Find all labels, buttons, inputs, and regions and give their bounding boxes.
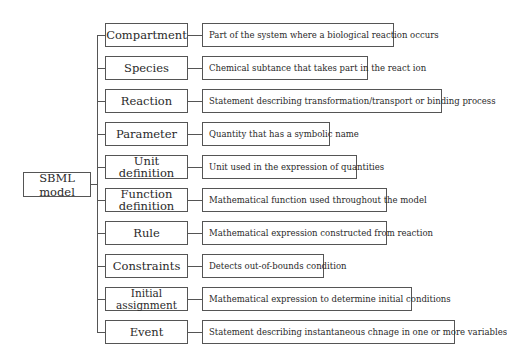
branch-connector (97, 35, 105, 36)
description-text: Unit used in the expression of quantitie… (209, 162, 384, 172)
node-label: Function definition (114, 188, 179, 212)
node-parameter: Parameter (105, 122, 188, 146)
branch-connector (97, 266, 105, 267)
root-node-label: SBML model (24, 171, 90, 199)
node-label: Compartment (106, 29, 187, 41)
branch-connector (97, 200, 105, 201)
node-reaction: Reaction (105, 89, 188, 113)
node-species: Species (105, 56, 188, 80)
description-text: Quantity that has a symbolic name (209, 129, 359, 139)
branch-connector (97, 68, 105, 69)
description-text: Statement describing transformation/tran… (209, 96, 496, 106)
desc-connector (188, 266, 202, 267)
description-event: Statement describing instantaneous chnag… (202, 320, 455, 344)
node-label: Reaction (121, 95, 172, 107)
description-text: Mathematical expression to determine ini… (209, 294, 451, 304)
desc-connector (188, 35, 202, 36)
tree-spine (97, 35, 98, 332)
node-unit-definition: Unit definition (105, 155, 188, 179)
description-reaction: Statement describing transformation/tran… (202, 89, 442, 113)
description-compartment: Part of the system where a biological re… (202, 23, 394, 47)
description-rule: Mathematical expression constructed from… (202, 221, 387, 245)
node-label: Rule (133, 227, 160, 239)
desc-connector (188, 299, 202, 300)
node-label: Constraints (113, 260, 181, 272)
node-function-definition: Function definition (105, 188, 188, 212)
node-rule: Rule (105, 221, 188, 245)
node-event: Event (105, 320, 188, 344)
desc-connector (188, 167, 202, 168)
node-compartment: Compartment (105, 23, 188, 47)
description-text: Detects out-of-bounds condition (209, 261, 347, 271)
description-species: Chemical subtance that takes part in the… (202, 56, 368, 80)
description-parameter: Quantity that has a symbolic name (202, 122, 330, 146)
node-label: Unit definition (106, 155, 187, 179)
branch-connector (97, 101, 105, 102)
branch-connector (97, 233, 105, 234)
branch-connector (97, 332, 105, 333)
node-initial-assignment: Initial assignment (105, 287, 188, 311)
description-text: Mathematical function used throughout th… (209, 195, 427, 205)
node-label: Parameter (116, 128, 177, 140)
description-initial-assignment: Mathematical expression to determine ini… (202, 287, 412, 311)
description-unit-definition: Unit used in the expression of quantitie… (202, 155, 357, 179)
description-text: Mathematical expression constructed from… (209, 228, 433, 238)
branch-connector (97, 299, 105, 300)
desc-connector (188, 233, 202, 234)
description-constraints: Detects out-of-bounds condition (202, 254, 324, 278)
desc-connector (188, 332, 202, 333)
description-text: Statement describing instantaneous chnag… (209, 327, 507, 337)
node-label: Event (130, 326, 164, 338)
node-label: Species (124, 62, 169, 74)
desc-connector (188, 134, 202, 135)
node-label: Initial assignment (106, 287, 187, 311)
branch-connector (97, 134, 105, 135)
branch-connector (97, 167, 105, 168)
description-function-definition: Mathematical function used throughout th… (202, 188, 387, 212)
description-text: Part of the system where a biological re… (209, 30, 439, 40)
root-node-sbml-model: SBML model (23, 172, 91, 197)
desc-connector (188, 101, 202, 102)
desc-connector (188, 200, 202, 201)
desc-connector (188, 68, 202, 69)
description-text: Chemical subtance that takes part in the… (209, 63, 426, 73)
node-constraints: Constraints (105, 254, 188, 278)
